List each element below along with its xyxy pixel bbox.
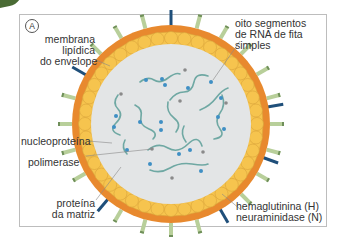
polymerase-label: polimerase	[28, 157, 79, 168]
spikes-label: hemaglutinina (H) neuraminidase (N)	[236, 201, 322, 223]
nucleoprotein-label: nucleoproteína	[21, 136, 90, 147]
envelope-label: membrana lipídica do envelope	[40, 34, 95, 67]
rna-label-line: simples	[235, 40, 306, 51]
envelope-label-line: do envelope	[40, 56, 95, 67]
rna-label: oito segmentos de RNA de fita simples	[235, 18, 306, 51]
neuraminidase-label: neuraminidase (N)	[236, 212, 322, 223]
matrix-protein-label: proteína da matriz	[40, 198, 95, 220]
matrix-label-line: da matriz	[40, 209, 95, 220]
